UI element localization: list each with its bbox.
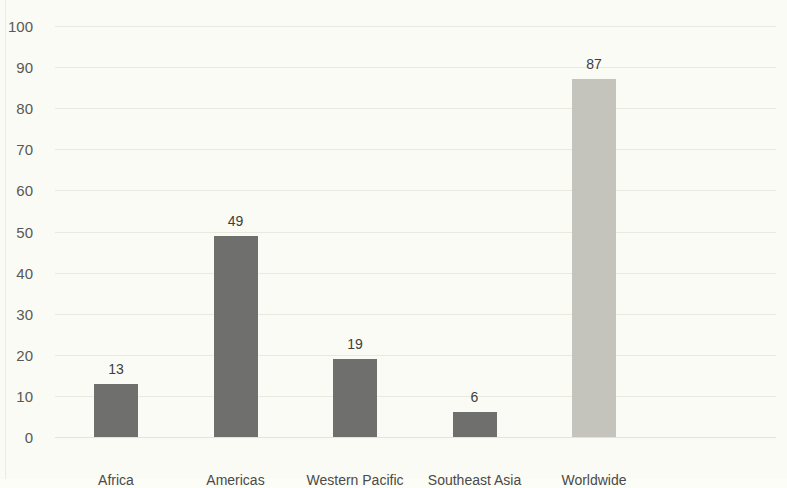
bar-value-label: 13	[76, 362, 156, 376]
plot-area: 010203040506070809010013Africa49Americas…	[55, 26, 776, 437]
bar	[214, 236, 258, 437]
y-axis-tick-label: 30	[0, 306, 33, 321]
bar	[453, 412, 497, 437]
gridline	[55, 314, 776, 315]
gridline	[55, 273, 776, 274]
bar	[333, 359, 377, 437]
gridline	[55, 190, 776, 191]
y-axis-tick-label: 40	[0, 265, 33, 280]
y-axis-tick-label: 90	[0, 60, 33, 75]
y-axis-tick-label: 20	[0, 347, 33, 362]
bar-value-label: 49	[196, 214, 276, 228]
y-axis-tick-label: 0	[0, 430, 33, 445]
y-axis-tick-label: 70	[0, 142, 33, 157]
gridline	[55, 232, 776, 233]
y-axis-tick-label: 50	[0, 224, 33, 239]
bar-value-label: 19	[315, 337, 395, 351]
gridline	[55, 67, 776, 68]
gridline	[55, 108, 776, 109]
gridline	[55, 396, 776, 397]
bar	[572, 79, 616, 437]
bar-value-label: 6	[435, 390, 515, 404]
y-axis-tick-label: 100	[0, 19, 33, 34]
y-axis-tick-label: 80	[0, 101, 33, 116]
y-axis-tick-label: 60	[0, 183, 33, 198]
gridline	[55, 26, 776, 27]
gridline	[55, 149, 776, 150]
axis-baseline	[55, 437, 776, 438]
x-axis-tick-label: Worldwide	[524, 473, 664, 487]
bar	[94, 384, 138, 437]
bar-value-label: 87	[554, 57, 634, 71]
gridline	[55, 355, 776, 356]
y-axis-tick-label: 10	[0, 388, 33, 403]
